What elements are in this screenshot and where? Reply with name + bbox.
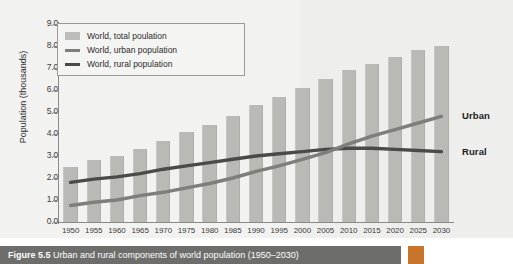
legend-swatch-bar-icon — [65, 32, 80, 40]
legend-label-rural-population: World, rural population — [87, 59, 172, 69]
line-rural-population — [71, 148, 442, 182]
y-axis-title: Population (thousands) — [18, 2, 28, 192]
series-label-rural: Rural — [462, 146, 487, 157]
series-label-urban: Urban — [462, 110, 490, 121]
legend-item-total-population: World, total poulation — [65, 29, 237, 43]
legend-label-total-population: World, total poulation — [87, 31, 167, 41]
legend-label-urban-population: World, urban population — [87, 45, 177, 55]
figure-container: Population (thousands) 0.01.02.03.04.05.… — [0, 0, 513, 264]
caption-accent-block — [408, 246, 424, 264]
figure-caption: Figure 5.5 Urban and rural components of… — [0, 246, 401, 264]
legend-swatch-rural-line-icon — [65, 63, 80, 66]
legend-item-urban-population: World, urban population — [65, 43, 237, 57]
line-urban-population — [71, 116, 442, 205]
legend-item-rural-population: World, rural population — [65, 57, 237, 71]
x-tick-label: 2030 — [424, 226, 458, 235]
chart-legend: World, total poulation World, urban popu… — [57, 23, 245, 76]
chart-panel: Population (thousands) 0.01.02.03.04.05.… — [0, 0, 513, 238]
x-axis-line — [58, 222, 454, 223]
figure-caption-text: Urban and rural components of world popu… — [53, 250, 299, 260]
figure-caption-label: Figure 5.5 — [8, 250, 51, 260]
y-tick-mark — [53, 222, 59, 223]
legend-swatch-urban-line-icon — [65, 49, 80, 52]
